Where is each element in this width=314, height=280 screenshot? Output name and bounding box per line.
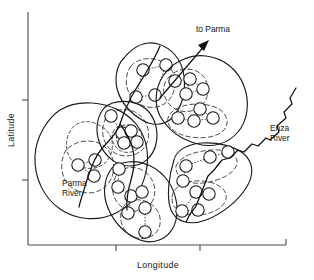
site-marker [172, 112, 184, 124]
site-marker [118, 137, 130, 149]
site-marker [72, 159, 84, 171]
site-marker [112, 181, 124, 193]
x-axis-label: Longitude [137, 260, 179, 270]
site-marker [204, 151, 216, 163]
enza-river-label-line2: River [270, 133, 290, 143]
to-parma-arrow-head [198, 40, 209, 51]
to-parma-label: to Parma [196, 24, 230, 34]
site-marker [207, 112, 219, 124]
site-marker [203, 188, 215, 200]
site-marker [197, 83, 209, 95]
site-marker [139, 202, 151, 214]
region-southcentre [105, 162, 178, 242]
figure-root: to Parma Parma River Enza River Latitude… [0, 0, 314, 280]
site-marker [180, 88, 192, 100]
site-marker [180, 160, 192, 172]
parma-river-label-line2: River [62, 188, 82, 198]
enza-river-label-line1: Enza [270, 123, 289, 133]
y-axis-label: Latitude [6, 113, 16, 147]
site-marker [188, 115, 200, 127]
axis-labels-group: Latitude Longitude [6, 113, 179, 270]
site-marker [136, 186, 148, 198]
site-marker [176, 205, 188, 217]
site-marker [149, 89, 161, 101]
site-marker [177, 175, 189, 187]
site-marker [122, 207, 134, 219]
cluster-map-figure: to Parma Parma River Enza River Latitude… [0, 0, 314, 280]
site-marker [194, 103, 206, 115]
site-marker [184, 73, 196, 85]
parma-river-label-line1: Parma [62, 178, 87, 188]
site-marker [125, 125, 137, 137]
site-marker [113, 163, 125, 175]
site-marker [160, 59, 172, 71]
region-southeast [168, 143, 251, 223]
site-marker [139, 226, 151, 238]
axes-group [22, 12, 286, 251]
rivers-group [79, 46, 296, 222]
site-marker [105, 110, 117, 122]
